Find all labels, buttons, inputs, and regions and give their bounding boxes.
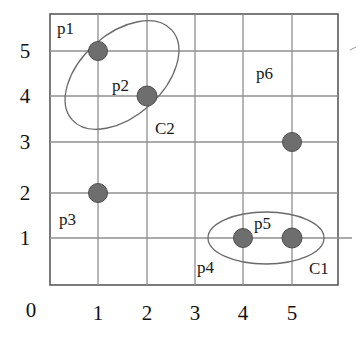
data-point-p6	[283, 133, 302, 152]
vertical-gridlines	[98, 14, 292, 285]
y-axis-tick-3: 3	[12, 132, 38, 153]
point-label-p2: p2	[112, 77, 129, 94]
point-label-p5: p5	[254, 215, 271, 232]
point-label-p6: p6	[256, 65, 273, 82]
x-axis-tick-5: 5	[279, 303, 305, 324]
data-point-p5	[282, 228, 302, 248]
horizontal-gridlines	[50, 51, 352, 238]
point-label-p4: p4	[197, 259, 214, 276]
x-axis-tick-3: 3	[182, 303, 208, 324]
data-point-p1	[89, 42, 108, 61]
y-axis-tick-2: 2	[12, 183, 38, 204]
x-axis-tick-0: 0	[18, 300, 44, 321]
data-point-p2	[137, 86, 157, 106]
x-axis-tick-4: 4	[230, 303, 256, 324]
x-axis-tick-2: 2	[134, 303, 160, 324]
x-axis-tick-1: 1	[85, 303, 111, 324]
point-label-p1: p1	[57, 20, 74, 37]
edge-artifact-mark	[350, 47, 356, 50]
point-label-p3: p3	[59, 211, 76, 228]
y-axis-tick-1: 1	[12, 228, 38, 249]
scatter-plot-figure: p1 p2 p3 p4 p5 p6 C2 C1 5 4 3 2 1 0 1 2 …	[0, 0, 360, 344]
data-point-p3	[89, 184, 108, 203]
plot-canvas	[0, 0, 360, 344]
cluster-label-c2: C2	[155, 120, 175, 137]
data-point-p4	[234, 229, 253, 248]
y-axis-tick-4: 4	[12, 86, 38, 107]
y-axis-tick-5: 5	[12, 41, 38, 62]
cluster-label-c1: C1	[309, 260, 329, 277]
